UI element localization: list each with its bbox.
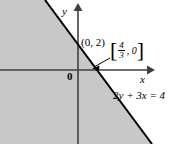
x-axis-arrow-icon: [147, 66, 155, 75]
x-axis-label: x: [140, 74, 145, 85]
fraction-denominator: 3: [118, 50, 125, 60]
inequality-graph-figure: (0, 2) 0 x y 2y + 3x = 4 [ 4 3 , 0 ]: [0, 0, 175, 144]
fraction-four-thirds: 4 3: [118, 41, 125, 60]
x-intercept-pointer-line: [94, 58, 110, 67]
y-axis-arrow-icon: [74, 3, 83, 11]
graph-canvas: [0, 0, 175, 144]
bracket-close: ]: [137, 41, 144, 60]
origin-label: 0: [67, 71, 73, 82]
y-intercept-label: (0, 2): [81, 37, 105, 48]
fraction-numerator: 4: [118, 41, 125, 50]
x-intercept-label: [ 4 3 , 0 ]: [110, 41, 144, 60]
coordinate-rest: , 0: [126, 46, 137, 56]
equation-label: 2y + 3x = 4: [113, 90, 165, 101]
shaded-region: [0, 0, 152, 144]
y-axis-label: y: [62, 6, 67, 17]
bracket-open: [: [110, 41, 117, 60]
